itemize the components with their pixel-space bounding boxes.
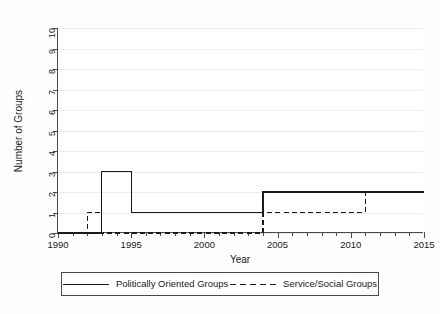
x-tick-label: 2015 bbox=[413, 240, 434, 250]
x-axis-title: Year bbox=[57, 255, 423, 265]
legend-key-dashed-line bbox=[230, 280, 276, 289]
chart-figure: Number of Groups 012345678910 1990199520… bbox=[0, 0, 440, 314]
legend-label-politically-oriented-groups: Politically Oriented Groups bbox=[116, 279, 228, 289]
x-tick-label: 2000 bbox=[194, 240, 215, 250]
y-tick-label: 7 bbox=[48, 90, 57, 95]
legend-item-politically-oriented-groups: Politically Oriented Groups bbox=[63, 279, 228, 289]
y-tick-label: 4 bbox=[48, 151, 57, 156]
legend-item-service-social-groups: Service/Social Groups bbox=[230, 279, 377, 289]
y-tick-label: 5 bbox=[48, 131, 57, 136]
y-tick-label: 6 bbox=[48, 110, 57, 115]
legend-label-service-social-groups: Service/Social Groups bbox=[283, 279, 377, 289]
x-axis-title-text: Year bbox=[230, 254, 250, 265]
plot-area: 012345678910 199019952000200520102015 bbox=[57, 28, 423, 233]
series-layer bbox=[58, 28, 424, 233]
x-tick-label: 1995 bbox=[121, 240, 142, 250]
x-tick-label: 2010 bbox=[340, 240, 361, 250]
y-tick-label: 8 bbox=[48, 69, 57, 74]
y-tick-label: 0 bbox=[48, 233, 57, 238]
y-axis-title-text: Number of Groups bbox=[14, 89, 24, 171]
chart-legend: Politically Oriented Groups Service/Soci… bbox=[61, 272, 379, 296]
y-tick-label: 1 bbox=[48, 213, 57, 218]
x-tick-label: 1990 bbox=[47, 240, 68, 250]
y-axis-title: Number of Groups bbox=[12, 28, 26, 233]
y-tick-label: 9 bbox=[48, 49, 57, 54]
x-tick-major bbox=[424, 232, 425, 238]
legend-key-solid-line bbox=[63, 280, 109, 289]
y-tick-label: 10 bbox=[48, 28, 57, 38]
x-tick-label: 2005 bbox=[267, 240, 288, 250]
series-politically-oriented-groups bbox=[58, 172, 424, 234]
y-tick-label: 2 bbox=[48, 192, 57, 197]
y-tick-label: 3 bbox=[48, 172, 57, 177]
